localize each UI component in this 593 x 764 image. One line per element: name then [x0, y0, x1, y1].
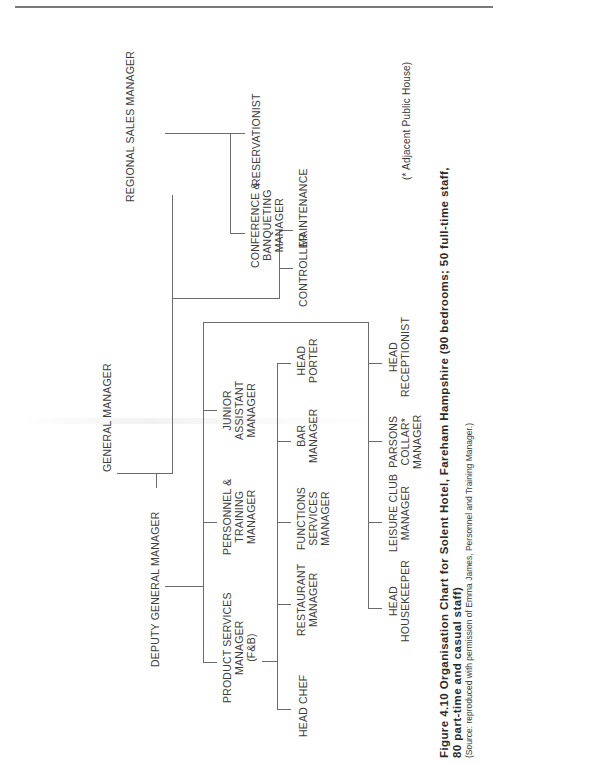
head-receptionist-label: HEADRECEPTIONIST — [387, 317, 411, 397]
personnel-label: PERSONNEL &TRAININGMANAGER — [221, 479, 257, 556]
controller-stub — [279, 268, 293, 269]
maintenance-label: MAINTENANCE — [297, 168, 309, 247]
deputy-bus — [203, 322, 204, 663]
bar-stub — [277, 441, 291, 442]
head-chef-stub — [277, 709, 291, 710]
head-housekeeper-label: HEADHOUSEKEEPER — [387, 560, 411, 642]
product-services-stub — [203, 662, 217, 663]
regional-connector — [165, 133, 245, 134]
regional-bus — [230, 133, 231, 234]
bar-label: BARMANAGER — [295, 409, 319, 464]
footnote: (* Adjacent Public House) — [401, 62, 413, 180]
porter-stub — [277, 363, 291, 364]
head-chef-label: HEAD CHEF — [297, 675, 309, 737]
fb-bus — [277, 363, 278, 710]
leisure-stub — [368, 522, 382, 523]
fb-connector — [262, 661, 278, 662]
gm-spine — [172, 195, 173, 474]
restaurant-label: RESTAURANTMANAGER — [295, 564, 319, 636]
deputy-branch — [165, 586, 204, 587]
leisure-club-label: LEISURE CLUBMANAGER — [387, 474, 411, 552]
parsons-stub — [368, 441, 382, 442]
header-rule — [15, 6, 493, 8]
head-porter-label: HEADPORTER — [295, 338, 319, 383]
deputy-gm-label: DEPUTY GENERAL MANAGER — [149, 511, 161, 667]
gm-connector — [117, 473, 173, 474]
restaurant-stub — [277, 604, 291, 605]
deputy-top-rail — [203, 322, 369, 323]
housekeeper-stub — [368, 608, 382, 609]
functions-label: FUNCTIONSSERVICESMANAGER — [295, 487, 331, 550]
controller-branch — [172, 298, 279, 299]
scan-smudge — [20, 418, 400, 424]
caption-source: (Source: reproduced with permission of E… — [464, 167, 474, 758]
functions-stub — [277, 522, 291, 523]
reservationist-label: RESERVATIONIST — [250, 93, 262, 186]
figure-caption: Figure 4.10 Organisation Chart for Solen… — [438, 167, 474, 758]
regional-sales-label: REGIONAL SALES MANAGER — [124, 51, 136, 202]
junior-stub — [203, 410, 217, 411]
junior-assistant-label: JUNIORASSISTANTMANAGER — [221, 381, 257, 440]
caption-line-1: Figure 4.10 Organisation Chart for Solen… — [438, 167, 451, 758]
deputy-connector — [156, 473, 157, 488]
product-services-label: PRODUCT SERVICESMANAGER(F&B) — [221, 592, 257, 703]
conference-label: CONFERENCE &BANQUETINGMANAGER — [249, 182, 285, 268]
conference-stub — [230, 233, 245, 234]
general-manager-label: GENERAL MANAGER — [101, 363, 113, 472]
rooms-bus — [368, 322, 369, 609]
personnel-stub — [203, 522, 217, 523]
parsons-collar-label: PARSONSCOLLAR*MANAGER — [387, 415, 423, 470]
receptionist-stub — [368, 363, 382, 364]
caption-line-2: 80 part-time and casual staff) — [451, 167, 464, 758]
